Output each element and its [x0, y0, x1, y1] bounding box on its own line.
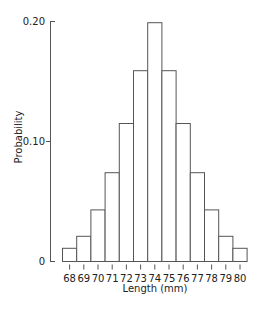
x-tick-label: 80: [234, 273, 247, 284]
x-tick-label: 77: [191, 273, 204, 284]
bar-68: [63, 248, 77, 261]
bar-69: [77, 236, 91, 261]
x-tick-label: 68: [63, 273, 76, 284]
bar-80: [233, 248, 247, 261]
x-tick-label: 71: [106, 273, 119, 284]
x-axis-ticks: 68697071727374757677787980: [63, 265, 246, 285]
y-axis-label: Probability: [13, 110, 24, 163]
bar-72: [119, 124, 133, 262]
bar-78: [205, 210, 219, 262]
x-tick-label: 78: [205, 273, 218, 284]
bar-75: [162, 71, 176, 262]
bars-group: [63, 23, 248, 262]
x-axis-label: Length (mm): [123, 283, 188, 294]
bar-77: [190, 173, 204, 262]
bar-70: [91, 210, 105, 262]
bar-74: [148, 23, 162, 262]
x-tick-label: 70: [92, 273, 105, 284]
y-tick-label: 0.10: [23, 136, 45, 147]
y-tick-label: 0.20: [23, 16, 45, 27]
x-tick-label: 79: [219, 273, 232, 284]
histogram-chart: 68697071727374757677787980 00.100.20 Len…: [0, 0, 261, 310]
x-tick-label: 69: [77, 273, 90, 284]
bar-73: [134, 71, 148, 262]
bar-79: [219, 236, 233, 261]
bar-71: [105, 173, 119, 262]
bar-76: [176, 124, 190, 262]
y-tick-label: 0: [39, 256, 45, 267]
